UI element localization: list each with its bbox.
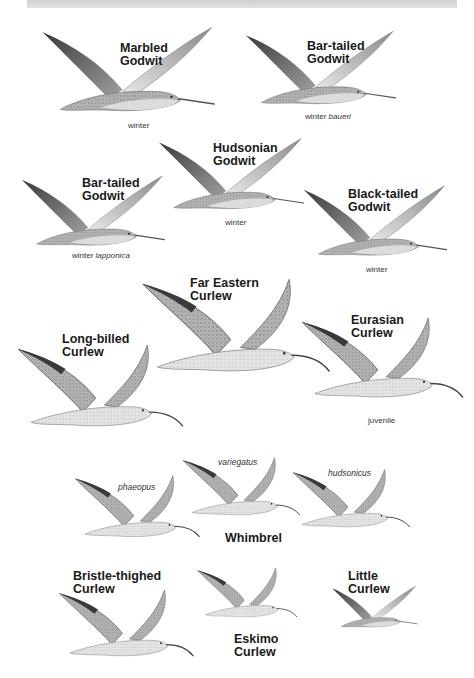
bar-tailed-godwit-lapponica-caption: winter lapponica bbox=[72, 251, 130, 260]
whimbrel-phaeopus-label: phaeopus bbox=[118, 482, 155, 492]
bristle-thighed-curlew-label: Bristle-thighed Curlew bbox=[73, 570, 161, 596]
bar-tailed-godwit-lapponica-label: Bar-tailed Godwit bbox=[82, 177, 140, 203]
eurasian-curlew-label: Eurasian Curlew bbox=[351, 314, 404, 340]
marbled-godwit-label: Marbled Godwit bbox=[120, 42, 168, 68]
hudsonian-godwit-label: Hudsonian Godwit bbox=[213, 142, 278, 168]
whimbrel-variegatus-label: variegatus bbox=[218, 457, 257, 467]
far-eastern-curlew-label: Far Eastern Curlew bbox=[190, 277, 259, 303]
marbled-godwit-caption: winter bbox=[128, 121, 149, 130]
header-band bbox=[27, 0, 457, 8]
whimbrel-hudsonicus-label: hudsonicus bbox=[328, 468, 371, 478]
little-curlew-label: Little Curlew bbox=[348, 570, 390, 596]
marbled-godwit-illustration bbox=[38, 22, 216, 122]
black-tailed-godwit-caption: winter bbox=[366, 265, 387, 274]
bar-tailed-godwit-baueri-label: Bar-tailed Godwit bbox=[307, 40, 365, 66]
black-tailed-godwit-label: Black-tailed Godwit bbox=[348, 188, 418, 214]
hudsonian-godwit-caption: winter bbox=[225, 218, 246, 227]
bar-tailed-godwit-baueri-caption: winter baueri bbox=[305, 112, 351, 121]
bristle-thighed-curlew-illustration bbox=[56, 585, 196, 665]
eskimo-curlew-label: Eskimo Curlew bbox=[234, 633, 278, 659]
long-billed-curlew-label: Long-billed Curlew bbox=[62, 333, 129, 359]
whimbrel-label: Whimbrel bbox=[225, 532, 282, 545]
eskimo-curlew-illustration bbox=[195, 564, 299, 624]
eurasian-curlew-caption: juvenile bbox=[368, 416, 395, 425]
